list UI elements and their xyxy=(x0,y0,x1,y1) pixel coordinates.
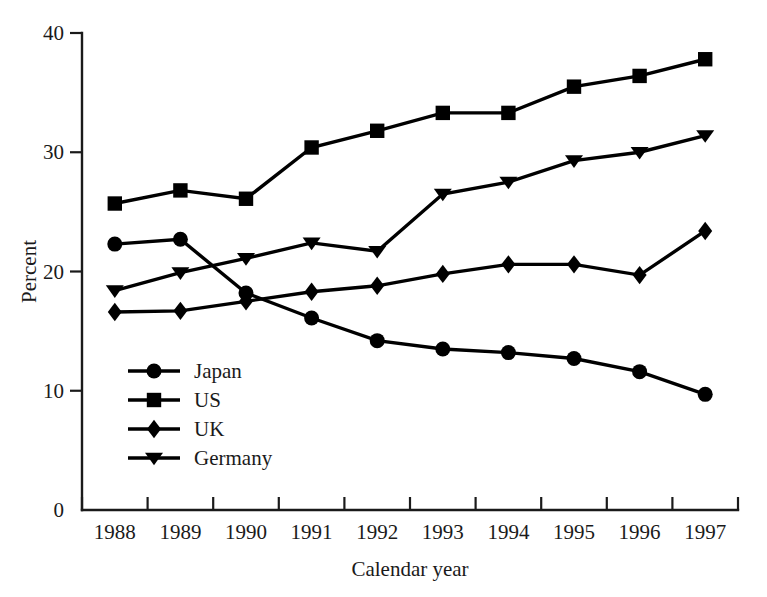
line-chart: 0102030401988198919901991199219931994199… xyxy=(0,0,767,597)
data-point-marker-circle xyxy=(567,351,582,366)
x-axis-tick-label: 1994 xyxy=(487,520,530,544)
data-point-marker-square xyxy=(436,106,450,120)
y-axis-tick-label: 10 xyxy=(43,379,64,403)
data-point-marker-square xyxy=(501,106,515,120)
data-point-marker-diamond xyxy=(436,265,450,283)
series-uk xyxy=(108,222,712,321)
y-axis-tick-label: 30 xyxy=(43,140,64,164)
data-point-marker-diamond xyxy=(173,302,187,320)
data-point-marker-circle xyxy=(632,364,647,379)
data-point-marker-diamond xyxy=(370,277,384,295)
data-point-marker-square xyxy=(632,69,646,83)
legend-item-us: US xyxy=(128,388,221,412)
chart-container: 0102030401988198919901991199219931994199… xyxy=(0,0,767,597)
data-point-marker-square xyxy=(370,124,384,138)
data-point-marker-diamond xyxy=(501,255,515,273)
legend-label: UK xyxy=(194,417,224,441)
data-point-marker-square xyxy=(698,52,712,66)
y-axis-tick-label: 20 xyxy=(43,260,64,284)
legend: JapanUSUKGermany xyxy=(128,359,273,470)
data-point-marker-circle xyxy=(698,387,713,402)
x-axis-tick-label: 1992 xyxy=(356,520,398,544)
data-point-marker-square xyxy=(173,183,187,197)
legend-item-germany: Germany xyxy=(128,446,273,470)
data-point-marker-circle xyxy=(501,345,516,360)
data-point-marker-circle xyxy=(435,342,450,357)
data-point-marker-square xyxy=(304,140,318,154)
data-point-marker-square xyxy=(239,192,253,206)
data-point-marker-diamond xyxy=(305,283,319,301)
data-point-marker-circle xyxy=(173,232,188,247)
data-point-marker-circle xyxy=(107,237,122,252)
series-line-us xyxy=(115,59,705,203)
x-axis-title: Calendar year xyxy=(351,557,468,581)
x-axis-tick-label: 1996 xyxy=(619,520,661,544)
x-axis-tick-label: 1989 xyxy=(159,520,201,544)
labels-layer: 0102030401988198919901991199219931994199… xyxy=(17,21,726,581)
data-point-marker-circle xyxy=(370,333,385,348)
x-axis-tick-label: 1991 xyxy=(291,520,333,544)
data-point-marker-diamond xyxy=(633,266,647,284)
data-point-marker-triangle-down xyxy=(368,246,386,259)
legend-item-uk: UK xyxy=(128,417,224,441)
data-point-marker-square xyxy=(567,79,581,93)
data-point-marker-diamond xyxy=(108,303,122,321)
series-line-uk xyxy=(115,231,705,312)
data-point-marker-square xyxy=(108,196,122,210)
x-axis-tick-label: 1993 xyxy=(422,520,464,544)
legend-label: Germany xyxy=(194,446,273,470)
legend-label: US xyxy=(194,388,221,412)
data-point-marker-diamond xyxy=(698,222,712,240)
x-axis-tick-label: 1988 xyxy=(94,520,136,544)
x-axis-tick-label: 1997 xyxy=(684,520,726,544)
y-axis-title: Percent xyxy=(17,240,41,303)
data-point-marker-triangle-down xyxy=(106,285,124,298)
data-point-marker-diamond xyxy=(567,255,581,273)
y-axis-tick-label: 0 xyxy=(54,498,65,522)
series-line-germany xyxy=(115,136,705,291)
data-point-marker-circle xyxy=(304,311,319,326)
x-axis-tick-label: 1990 xyxy=(225,520,267,544)
y-axis-tick-label: 40 xyxy=(43,21,64,45)
series-layer xyxy=(106,52,714,402)
x-axis-tick-label: 1995 xyxy=(553,520,595,544)
legend-label: Japan xyxy=(194,359,242,383)
series-us xyxy=(108,52,713,211)
data-point-marker-diamond xyxy=(147,420,161,438)
data-point-marker-square xyxy=(147,393,161,407)
data-point-marker-circle xyxy=(147,364,162,379)
legend-item-japan: Japan xyxy=(128,359,242,383)
